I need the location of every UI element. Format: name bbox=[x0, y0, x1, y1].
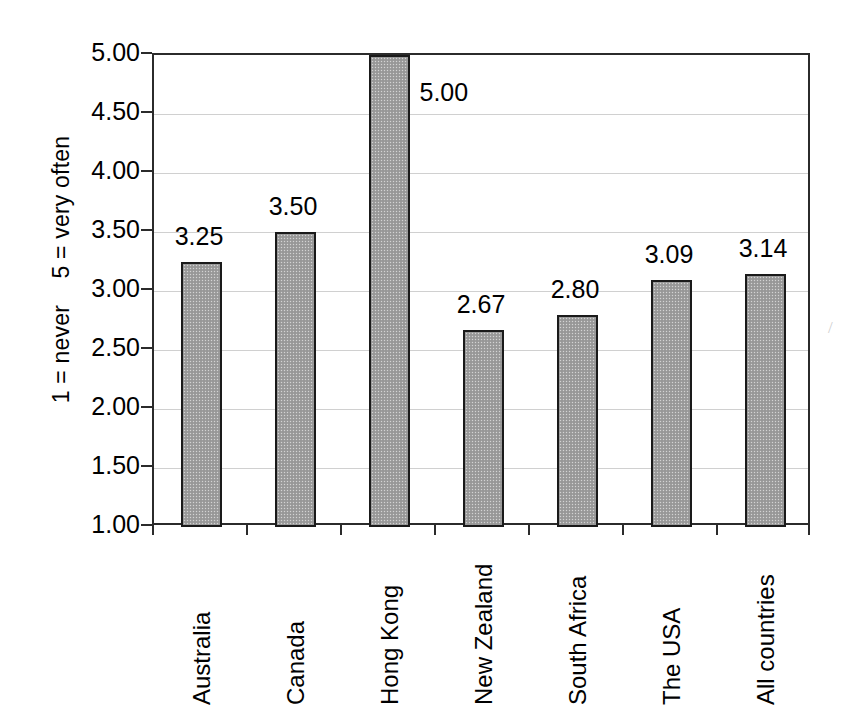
y-axis-tick-label: 4.50 bbox=[58, 99, 140, 124]
bar[interactable] bbox=[557, 315, 598, 527]
y-axis-tick-mark bbox=[141, 524, 152, 526]
y-axis-tick-label: 5.00 bbox=[58, 40, 140, 65]
bar[interactable] bbox=[651, 280, 692, 527]
x-axis-tick-mark bbox=[246, 523, 248, 535]
y-axis-tick-label: 1.00 bbox=[58, 512, 140, 537]
scan-artifact: / bbox=[828, 318, 839, 334]
bar-value-label: 3.09 bbox=[624, 242, 714, 267]
x-axis-category-label: Australia bbox=[190, 612, 214, 705]
y-axis-tick-label: 3.50 bbox=[58, 217, 140, 242]
bar[interactable] bbox=[181, 262, 222, 528]
bar-value-label: 3.14 bbox=[718, 236, 808, 261]
bar-value-label: 5.00 bbox=[420, 80, 490, 105]
y-axis-tick-labels: 5.004.504.003.503.002.502.001.501.00 bbox=[52, 0, 140, 722]
bar[interactable] bbox=[369, 55, 410, 527]
x-axis-category-label: Hong Kong bbox=[378, 585, 402, 705]
x-axis-tick-mark bbox=[622, 523, 624, 535]
y-axis-tick-mark bbox=[141, 229, 152, 231]
bar-chart: 1 = never 5 = very often 5.004.504.003.5… bbox=[0, 0, 849, 722]
plot-area bbox=[152, 53, 810, 525]
y-axis-tick-label: 3.00 bbox=[58, 276, 140, 301]
gridline bbox=[154, 173, 808, 174]
y-axis-tick-label: 1.50 bbox=[58, 453, 140, 478]
x-axis-category-label: South Africa bbox=[566, 576, 590, 705]
y-axis-tick-label: 2.00 bbox=[58, 394, 140, 419]
gridline bbox=[154, 232, 808, 233]
bar[interactable] bbox=[463, 330, 504, 527]
y-axis-tick-label: 2.50 bbox=[58, 335, 140, 360]
y-axis-tick-mark bbox=[141, 406, 152, 408]
bar[interactable] bbox=[745, 274, 786, 527]
y-axis-tick-mark bbox=[141, 347, 152, 349]
y-axis-tick-mark bbox=[141, 465, 152, 467]
bar-value-label: 3.50 bbox=[248, 194, 338, 219]
x-axis-category-label: All countries bbox=[754, 574, 778, 705]
gridline bbox=[154, 114, 808, 115]
y-axis-tick-mark bbox=[141, 170, 152, 172]
bar[interactable] bbox=[275, 232, 316, 527]
x-axis-category-label: New Zealand bbox=[472, 564, 496, 705]
x-axis-tick-mark bbox=[716, 523, 718, 535]
x-axis-tick-mark bbox=[434, 523, 436, 535]
x-axis-category-label: The USA bbox=[660, 608, 684, 705]
bar-value-label: 3.25 bbox=[154, 224, 244, 249]
x-axis-tick-mark bbox=[340, 523, 342, 535]
x-axis-tick-mark bbox=[808, 523, 810, 535]
bar-value-label: 2.67 bbox=[436, 292, 526, 317]
x-axis-tick-mark bbox=[152, 523, 154, 535]
y-axis-tick-mark bbox=[141, 288, 152, 290]
y-axis-tick-mark bbox=[141, 111, 152, 113]
x-axis-tick-mark bbox=[528, 523, 530, 535]
y-axis-tick-label: 4.00 bbox=[58, 158, 140, 183]
bar-value-label: 2.80 bbox=[530, 277, 620, 302]
y-axis-tick-mark bbox=[141, 52, 152, 54]
x-axis-category-label: Canada bbox=[284, 621, 308, 705]
